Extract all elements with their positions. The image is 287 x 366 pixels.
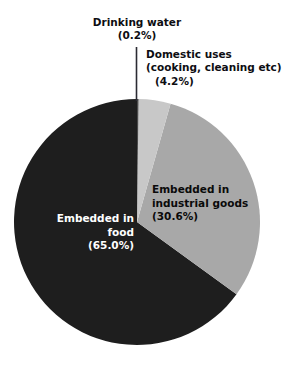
label-embedded-in-food: Embedded in food (65.0%) bbox=[24, 212, 134, 253]
label-embedded-in-industrial-goods: Embedded in industrial goods (30.6%) bbox=[152, 183, 272, 224]
label-industrial-line2: industrial goods bbox=[152, 197, 272, 211]
label-drinking-water: Drinking water (0.2%) bbox=[81, 16, 193, 43]
label-domestic-uses-detail: (cooking, cleaning etc) bbox=[146, 61, 287, 74]
label-drinking-water-name: Drinking water bbox=[81, 16, 193, 29]
label-food-line1: Embedded in bbox=[24, 212, 134, 226]
pie-chart-figure: Drinking water (0.2%) Domestic uses (coo… bbox=[0, 0, 287, 366]
label-domestic-uses-name: Domestic uses bbox=[146, 48, 287, 61]
label-drinking-water-percent: (0.2%) bbox=[81, 29, 193, 42]
label-industrial-percent: (30.6%) bbox=[152, 210, 272, 224]
label-food-percent: (65.0%) bbox=[24, 239, 134, 253]
label-industrial-line1: Embedded in bbox=[152, 183, 272, 197]
label-domestic-uses: Domestic uses (cooking, cleaning etc) (4… bbox=[146, 48, 287, 88]
label-food-line2: food bbox=[24, 226, 134, 240]
label-domestic-uses-percent: (4.2%) bbox=[146, 75, 287, 88]
